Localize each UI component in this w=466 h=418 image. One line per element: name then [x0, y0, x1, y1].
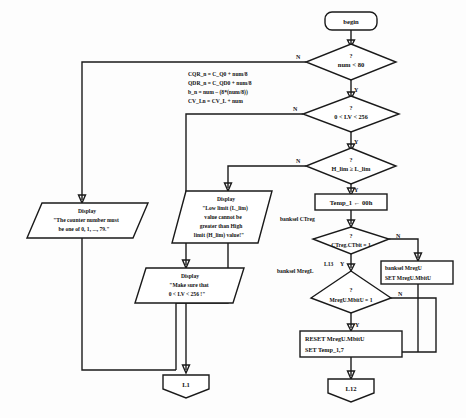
decision-mregu-label: MregU.MbitU = 1 [329, 297, 372, 303]
temp1-label: Temp_1 ← 00h [330, 199, 373, 206]
edge-label-num-y: Y [354, 87, 359, 93]
display-limit-line-2: "Low limit (L_lim) [202, 205, 248, 212]
edge-label-lim-y: Y [354, 187, 359, 193]
assign-line-3: b_n = num – (8*(num/8)) [188, 89, 248, 96]
node-decision-lim: ? H_lim ≥ L_lim [306, 148, 396, 184]
decision-ctreg-label: CTreg.CTbit = 1 [331, 242, 371, 248]
flowchart-svg: begin ? num < 80 ? 0 < LV < 256 ? H_lim … [0, 0, 466, 418]
assign-line-2: QDR_n = C_QD0 + num/8 [188, 80, 252, 86]
edge-label-mregu-y: Y [355, 322, 360, 328]
node-decision-num: ? num < 80 [306, 44, 396, 80]
display-counter-line-3: be one of 0, 1, ..., 79." [58, 226, 109, 232]
decision-ctreg-question: ? [350, 233, 353, 239]
decision-mregu-question: ? [350, 287, 353, 293]
node-decision-ctreg: ? CTreg.CTbit = 1 [313, 227, 389, 254]
set-mregu-line-1: banksel MregU [385, 265, 422, 271]
node-decision-mregu: ? MregU.MbitU = 1 [311, 271, 391, 313]
display-limit-line-1: Display [217, 196, 235, 202]
begin-label: begin [343, 18, 359, 25]
node-display-counter: Display "The counter number must be one … [27, 203, 148, 238]
l12-label: L12 [346, 385, 358, 392]
node-begin: begin [325, 12, 377, 30]
display-limit-line-4: greater than High [200, 223, 244, 229]
reset-mregu-line-1: RESET MregU.MbitU [305, 335, 365, 342]
flowchart-canvas: begin ? num < 80 ? 0 < LV < 256 ? H_lim … [0, 0, 466, 418]
decision-num-question: ? [350, 53, 353, 59]
edge-label-num-n: N [296, 54, 301, 60]
display-counter-line-2: "The counter number must [53, 217, 119, 223]
edge-label-ctreg-y: Y [340, 261, 345, 267]
l13-label: L13 [324, 261, 334, 267]
display-counter-line-1: Display [78, 208, 96, 214]
node-assignments: CQR_n = C_Q0 + num/8 QDR_n = C_QD0 + num… [188, 71, 252, 104]
node-display-limit: Display "Low limit (L_lim) value cannot … [172, 191, 272, 243]
node-decision-lv: ? 0 < LV < 256 [303, 96, 399, 132]
display-lv-line-3: 0 < LV < 256 !" [169, 291, 206, 297]
decision-lv-question: ? [350, 105, 353, 111]
banksel-ctreg-label: banksel CTreg [280, 216, 315, 222]
decision-lv-label: 0 < LV < 256 [334, 113, 368, 120]
node-reset-mregu: RESET MregU.MbitU SET Temp_1,7 [300, 331, 402, 357]
node-connector-l12: L12 [328, 379, 374, 402]
assign-line-1: CQR_n = C_Q0 + num/8 [188, 71, 248, 77]
edge-label-lim-n: N [296, 158, 301, 164]
l1-label: L1 [182, 381, 190, 388]
node-connector-l1: L1 [163, 375, 209, 398]
banksel-mregl-label: banksel MregL [277, 268, 314, 274]
edge-label-lv-y: Y [354, 139, 359, 145]
reset-mregu-line-2: SET Temp_1,7 [305, 346, 344, 353]
decision-num-label: num < 80 [338, 61, 365, 68]
decision-lim-question: ? [350, 157, 353, 163]
node-display-lv: Display "Make sure that 0 < LV < 256 !" [135, 268, 244, 303]
node-set-mregu: banksel MregU SET MregU.MbitU [381, 261, 453, 284]
display-lv-line-1: Display [181, 273, 199, 279]
assign-line-4: CV_Ln = CV_L + num [188, 98, 243, 104]
edge-label-lv-n: N [293, 106, 298, 112]
decision-lim-label: H_lim ≥ L_lim [332, 165, 372, 172]
display-lv-line-2: "Make sure that [169, 282, 208, 288]
edge-label-mregu-n: N [398, 291, 403, 297]
display-limit-line-5: limit (H_lim) value!" [194, 232, 244, 239]
display-limit-line-3: value cannot be [204, 214, 242, 220]
set-mregu-line-2: SET MregU.MbitU [385, 275, 431, 281]
edge-label-ctreg-n: N [396, 233, 401, 239]
node-temp1: Temp_1 ← 00h [315, 194, 387, 210]
